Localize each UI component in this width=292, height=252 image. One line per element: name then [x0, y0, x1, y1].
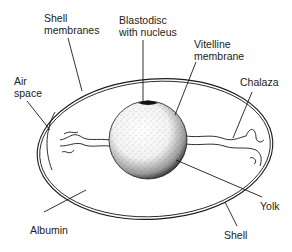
label-chalaza: Chalaza	[240, 76, 279, 88]
yolk	[109, 101, 187, 179]
egg-diagram: Shell membranes Blastodisc with nucleus …	[0, 0, 292, 252]
label-blastodisc: Blastodisc with nucleus	[119, 14, 177, 38]
label-yolk: Yolk	[260, 200, 279, 212]
chalaza-left	[60, 132, 110, 153]
label-shell-membranes: Shell membranes	[44, 12, 99, 36]
label-air-space: Air space	[14, 75, 42, 99]
label-shell: Shell	[224, 229, 247, 241]
label-albumin: Albumin	[30, 224, 68, 236]
label-vitelline-membrane: Vitelline membrane	[194, 38, 244, 62]
chalaza-right	[186, 129, 264, 166]
